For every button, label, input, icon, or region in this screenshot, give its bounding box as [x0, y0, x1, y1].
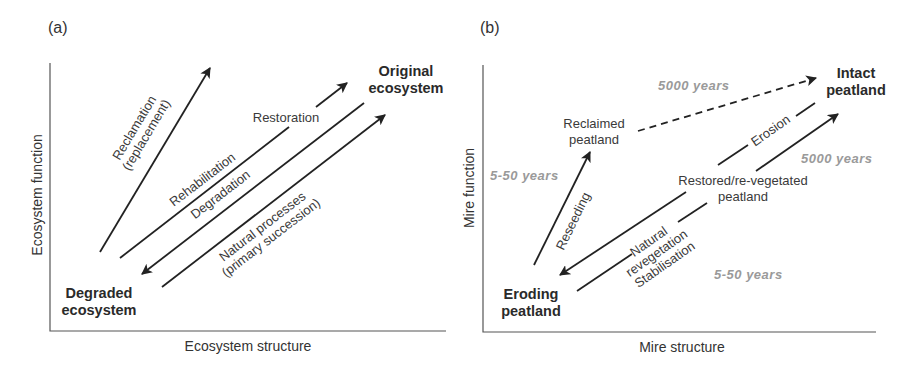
degraded-ecosystem-node: Degraded ecosystem — [62, 285, 137, 318]
figure: (a) Ecosystem structure Ecosystem functi… — [0, 0, 911, 368]
eroding-peatland-node: Eroding peatland — [501, 286, 561, 319]
timescale-reclaimed-to-intact: 5000 years — [658, 78, 730, 93]
timescale-reseeding: 5-50 years — [490, 168, 559, 183]
restoration-label: Restoration — [253, 110, 319, 125]
reclaimed-peatland-node: Reclaimed peatland — [563, 116, 624, 147]
natural-revegetation-label: Natural revegetation Stabilisation — [615, 215, 698, 291]
erosion-line-seg2 — [718, 145, 748, 165]
panel-b-y-axis-title: Mire function — [461, 148, 477, 228]
panel-b-label: (b) — [480, 19, 500, 36]
svg-text:peatland: peatland — [501, 303, 561, 319]
svg-text:Degraded: Degraded — [66, 285, 133, 301]
stabilisation-line-seg2 — [678, 203, 707, 222]
restored-peatland-node: Restored/re-vegetated peatland — [678, 173, 807, 204]
erosion-label: Erosion — [748, 112, 793, 150]
intact-peatland-node: Intact peatland — [826, 65, 886, 98]
panel-b: (b) Mire structure Mire function Reseedi… — [461, 19, 886, 355]
svg-text:ecosystem: ecosystem — [62, 302, 137, 318]
svg-text:peatland: peatland — [826, 82, 886, 98]
reseeding-label: Reseeding — [553, 190, 594, 252]
svg-text:Reclaimed: Reclaimed — [563, 116, 624, 131]
timescale-eroding-to-restored: 5-50 years — [714, 267, 783, 282]
stabilisation-line-seg1 — [577, 254, 632, 291]
restoration-arrow — [316, 83, 347, 107]
panel-a: (a) Ecosystem structure Ecosystem functi… — [29, 19, 446, 354]
svg-text:Original: Original — [379, 63, 434, 79]
svg-text:Restored/re-vegetated: Restored/re-vegetated — [678, 173, 807, 188]
svg-text:ecosystem: ecosystem — [369, 80, 444, 96]
reclamation-label: Reclamation (replacement) — [107, 89, 173, 173]
natural-processes-arrow — [162, 115, 385, 287]
panel-b-x-axis-title: Mire structure — [639, 339, 725, 355]
panel-a-label: (a) — [48, 19, 68, 36]
svg-text:Intact: Intact — [837, 65, 876, 81]
svg-text:Eroding: Eroding — [504, 286, 559, 302]
timescale-restored-to-intact: 5000 years — [801, 151, 873, 166]
svg-text:peatland: peatland — [718, 189, 768, 204]
erosion-line-seg1 — [796, 103, 815, 116]
original-ecosystem-node: Original ecosystem — [369, 63, 444, 96]
panel-a-y-axis-title: Ecosystem function — [29, 134, 45, 255]
panel-a-x-axis-title: Ecosystem structure — [185, 338, 312, 354]
svg-text:peatland: peatland — [569, 132, 619, 147]
